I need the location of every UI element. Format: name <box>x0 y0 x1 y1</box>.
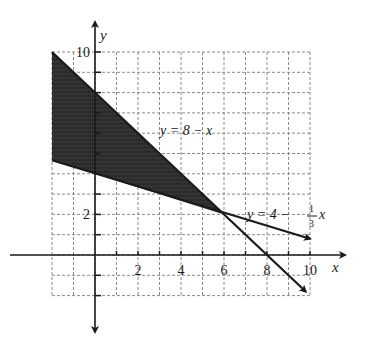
svg-text:y = 4 −: y = 4 − <box>245 207 290 222</box>
graph-inequality-system: x y 246810 210 y = 8 − x y = 4 − 1 3 x <box>0 0 367 351</box>
svg-text:1: 1 <box>309 203 314 214</box>
x-axis-label: x <box>331 259 339 275</box>
line2-label: y = 4 − 1 3 x <box>245 203 326 229</box>
svg-text:8: 8 <box>264 263 271 278</box>
svg-text:2: 2 <box>135 263 142 278</box>
svg-text:x: x <box>318 207 326 222</box>
svg-text:10: 10 <box>303 263 317 278</box>
svg-text:3: 3 <box>309 218 314 229</box>
svg-text:4: 4 <box>178 263 185 278</box>
svg-text:2: 2 <box>83 207 90 222</box>
line1-label: y = 8 − x <box>158 123 213 138</box>
y-axis-label: y <box>98 27 107 43</box>
svg-text:6: 6 <box>221 263 228 278</box>
svg-text:10: 10 <box>76 45 90 60</box>
